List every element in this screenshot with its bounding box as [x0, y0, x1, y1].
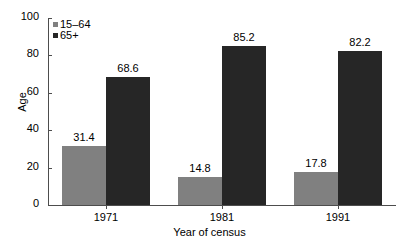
x-tick-label: 1971	[76, 211, 136, 223]
y-tick-label: 40	[27, 122, 39, 134]
y-tick-mark	[48, 93, 52, 94]
legend-swatch-icon	[53, 33, 58, 38]
y-tick-mark	[48, 55, 52, 56]
bar-value-label: 82.2	[335, 36, 385, 48]
y-tick-label: 100	[21, 10, 39, 22]
x-axis-title: Year of census	[0, 226, 419, 238]
legend-swatch-icon	[53, 22, 58, 27]
y-axis-line	[48, 18, 49, 206]
legend-item-1: 65+	[53, 30, 91, 40]
y-tick-mark	[48, 205, 52, 206]
bar	[222, 46, 266, 205]
bar	[338, 51, 382, 205]
bar-value-label: 85.2	[219, 31, 269, 43]
bar-value-label: 14.8	[175, 162, 225, 174]
y-tick-mark	[48, 130, 52, 131]
legend: 15–64 65+	[53, 19, 91, 41]
legend-label: 65+	[60, 30, 79, 40]
y-tick-mark	[48, 18, 52, 19]
bar	[294, 172, 338, 205]
x-tick-mark	[222, 205, 223, 209]
legend-label: 15–64	[60, 19, 91, 29]
bar-value-label: 17.8	[291, 157, 341, 169]
bar	[106, 77, 150, 205]
bar-chart: Age Year of census 020406080100 19711981…	[0, 0, 419, 246]
y-tick-mark	[48, 168, 52, 169]
bar	[62, 146, 106, 205]
y-tick-label: 60	[27, 85, 39, 97]
y-tick-label: 80	[27, 47, 39, 59]
legend-item-0: 15–64	[53, 19, 91, 29]
x-tick-mark	[338, 205, 339, 209]
bar-value-label: 68.6	[103, 62, 153, 74]
bar	[178, 177, 222, 205]
x-tick-label: 1991	[308, 211, 368, 223]
y-tick-label: 0	[33, 197, 39, 209]
x-tick-label: 1981	[192, 211, 252, 223]
y-tick-label: 20	[27, 160, 39, 172]
bar-value-label: 31.4	[59, 131, 109, 143]
x-tick-mark	[106, 205, 107, 209]
